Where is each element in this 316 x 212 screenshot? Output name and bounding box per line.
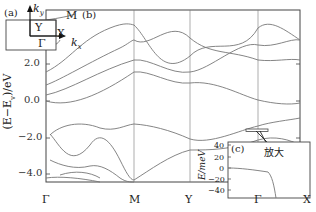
kx-label: kx <box>71 36 82 51</box>
bz-M-label: M <box>66 9 77 22</box>
y-axis-title: (E−Ev)/eV <box>1 67 16 137</box>
inset-y-axis-title: E/meV <box>197 145 207 185</box>
bz-diagram-box <box>6 20 56 50</box>
panel-c-label: (c) <box>231 143 244 154</box>
inset-ytick-neg20: −20 <box>208 175 225 184</box>
zoom-marker <box>246 129 268 132</box>
inset-ytick-40: 40 <box>214 141 224 150</box>
inset-ytick-20: 20 <box>214 153 224 162</box>
ytick-0: 0.0 <box>24 94 40 105</box>
ky-label: ky <box>33 2 44 17</box>
bz-Y-label: Y <box>35 21 42 34</box>
zoom-annotation: 放大 <box>264 144 284 159</box>
band-structure-plot <box>0 0 316 212</box>
xtick-M: M <box>129 193 140 206</box>
xtick-X: X <box>303 193 311 206</box>
panel-b-label: (b) <box>82 9 96 20</box>
ytick-neg4: −4.0 <box>18 167 42 178</box>
bz-X-label: X <box>57 27 65 40</box>
inset-ytick-0: 0 <box>219 164 224 173</box>
ytick-2: 2.0 <box>24 57 40 68</box>
xtick-Y: Y <box>185 193 192 206</box>
ytick-neg2: −2.0 <box>18 131 42 142</box>
xtick-gamma: Γ <box>42 193 50 206</box>
panel-a-label: (a) <box>4 7 18 18</box>
xtick-gamma2: Γ <box>254 193 262 206</box>
bz-gamma-label: Γ <box>38 37 46 50</box>
inset-ytick-neg40: −40 <box>208 186 225 195</box>
